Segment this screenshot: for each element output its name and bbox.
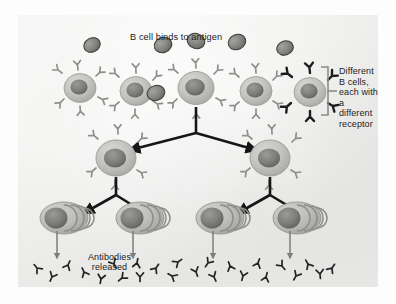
plasma-cell-4 bbox=[273, 202, 327, 234]
diagram-canvas bbox=[18, 15, 378, 287]
label-different-b-cells: Different B cells, each with a different… bbox=[339, 66, 378, 130]
antigen-6 bbox=[275, 39, 296, 58]
plasma-cell-2 bbox=[116, 202, 170, 234]
b-cell-4 bbox=[230, 64, 283, 119]
plasma-cell-1 bbox=[40, 202, 94, 234]
label-b-cell-binds-to-antigen: B cell binds to antigen bbox=[130, 32, 222, 43]
antigen-5 bbox=[226, 31, 249, 52]
label-antibodies-released: Antibodies released bbox=[88, 252, 131, 272]
division-arrows-generation-1 bbox=[130, 107, 256, 150]
b-cell-5-black-receptors bbox=[281, 63, 339, 121]
antigen-1 bbox=[81, 35, 103, 55]
b-cell-1 bbox=[53, 60, 108, 115]
immunology-diagram-figure: B cell binds to antigen Different B cell… bbox=[0, 0, 396, 304]
plasma-cell-3 bbox=[196, 202, 250, 234]
diagram-panel: B cell binds to antigen Different B cell… bbox=[18, 15, 378, 287]
secreted-antibodies bbox=[31, 256, 337, 284]
